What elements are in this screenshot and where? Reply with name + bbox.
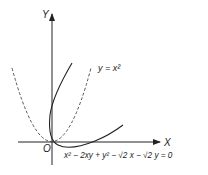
parabola-equation-label: y = x² [97,63,121,73]
diagram-canvas: Y X O y = x² x² − 2xy + y² − √2 x − √2 y… [0,0,208,175]
rotated-parabola-equation-label: x² − 2xy + y² − √2 x − √2 y = 0 [63,151,173,160]
x-axis-label: X [163,137,171,148]
origin-label: O [43,143,51,154]
rotated-parabola-curve [49,63,123,147]
y-axis-label: Y [42,9,50,20]
